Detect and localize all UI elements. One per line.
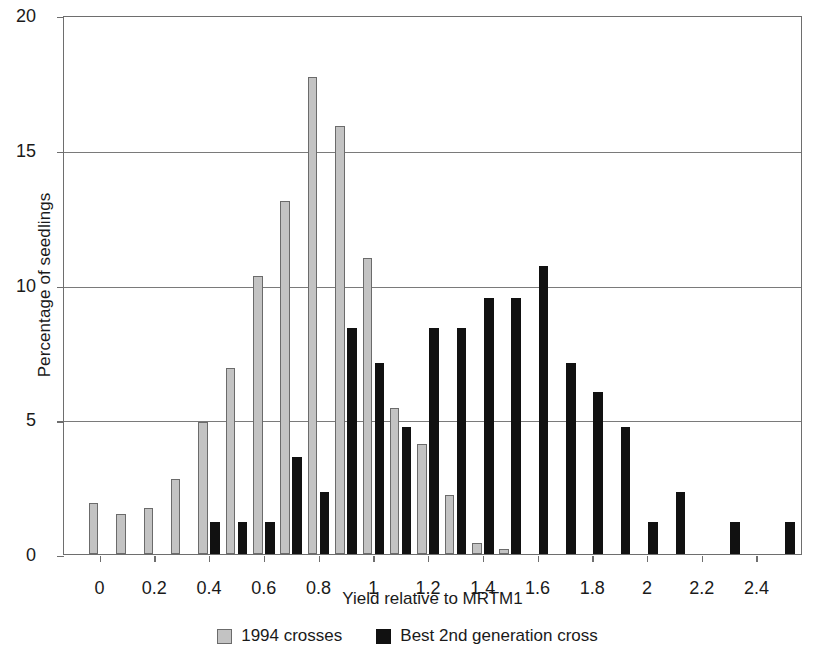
y-axis-tick-mark: [57, 287, 64, 288]
chart-figure: Percentage of seedlings 05101520 00.20.4…: [0, 0, 815, 656]
x-axis-tick-mark: [100, 556, 101, 562]
gridline: [64, 152, 801, 153]
y-axis-title: Percentage of seedlings: [35, 105, 55, 465]
bar: [89, 503, 99, 554]
bar: [363, 258, 373, 554]
bar: [198, 422, 208, 554]
bar: [320, 492, 330, 554]
x-axis-tick-mark: [538, 556, 539, 562]
x-axis-tick-mark: [483, 556, 484, 562]
bar: [253, 276, 263, 554]
y-axis-tick-label: 15: [0, 141, 36, 162]
bar: [593, 392, 603, 554]
x-axis-tick-mark: [428, 556, 429, 562]
gridline: [64, 287, 801, 288]
legend-label: 1994 crosses: [241, 626, 342, 646]
x-axis-title: Yield relative to MRTM1: [63, 589, 802, 609]
bar: [226, 368, 236, 554]
bar: [621, 427, 631, 554]
y-axis-tick-mark: [57, 556, 64, 557]
y-axis-tick-label: 10: [0, 276, 36, 297]
legend-swatch-1994-crosses-icon: [217, 629, 232, 644]
x-axis-tick-mark: [154, 556, 155, 562]
plot-area: 05101520 00.20.40.60.811.21.41.61.822.22…: [63, 16, 802, 555]
y-axis-tick-label: 20: [0, 6, 36, 27]
bar: [472, 543, 482, 554]
bar: [457, 328, 467, 554]
x-axis-tick-mark: [264, 556, 265, 562]
y-axis-tick-mark: [57, 152, 64, 153]
y-axis-tick-label: 0: [0, 545, 36, 566]
bar: [390, 408, 400, 554]
bar: [402, 427, 412, 554]
y-axis-tick-label: 5: [0, 410, 36, 431]
bar: [566, 363, 576, 554]
x-axis-tick-mark: [702, 556, 703, 562]
bar: [116, 514, 126, 554]
y-axis-tick-mark: [57, 17, 64, 18]
x-axis-tick-mark: [647, 556, 648, 562]
bar: [484, 298, 494, 554]
bar: [347, 328, 357, 554]
bar: [539, 266, 549, 554]
bar: [676, 492, 686, 554]
bar: [335, 126, 345, 555]
bar: [238, 522, 248, 554]
bar: [144, 508, 154, 554]
bar: [210, 522, 220, 554]
bar: [171, 479, 181, 554]
bar: [375, 363, 385, 554]
x-axis-tick-mark: [319, 556, 320, 562]
bar: [308, 77, 318, 554]
x-axis-tick-mark: [592, 556, 593, 562]
bar: [280, 201, 290, 554]
legend-item: 1994 crosses: [217, 626, 342, 646]
bar: [292, 457, 302, 554]
bar: [499, 549, 509, 554]
bar: [417, 444, 427, 554]
x-axis-tick-mark: [209, 556, 210, 562]
bar: [730, 522, 740, 554]
bar: [429, 328, 439, 554]
chart-legend: 1994 crossesBest 2nd generation cross: [0, 626, 815, 646]
bar: [265, 522, 275, 554]
x-axis-tick-mark: [373, 556, 374, 562]
bar: [445, 495, 455, 554]
bar: [648, 522, 658, 554]
legend-label: Best 2nd generation cross: [400, 626, 598, 646]
x-axis-tick-mark: [756, 556, 757, 562]
legend-swatch-best-cross-icon: [376, 629, 391, 644]
bar: [511, 298, 521, 554]
bar: [785, 522, 795, 554]
legend-item: Best 2nd generation cross: [376, 626, 598, 646]
y-axis-tick-mark: [57, 421, 64, 422]
